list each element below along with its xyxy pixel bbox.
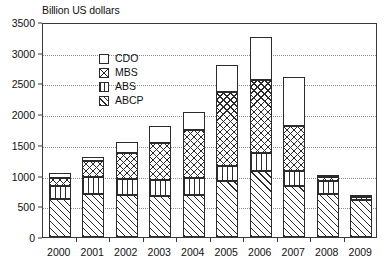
bar-stack[interactable] <box>183 22 205 237</box>
bar-segment-abcp[interactable] <box>149 196 171 237</box>
bar-segment-abcp[interactable] <box>116 195 138 237</box>
x-tick-mark <box>143 238 144 242</box>
x-tick-label: 2001 <box>81 246 104 258</box>
legend-item-abcp[interactable]: ABCP <box>99 95 144 106</box>
bar-segment-mbs[interactable] <box>149 143 171 180</box>
bar-segment-abs[interactable] <box>350 197 372 200</box>
bar-stack[interactable] <box>49 22 71 237</box>
y-tick-label: 2500 <box>12 78 35 90</box>
bar-segment-mbs[interactable] <box>49 178 71 186</box>
x-tick-mark <box>210 238 211 242</box>
y-tick-label: 2000 <box>12 109 35 121</box>
x-tick-mark <box>109 238 110 242</box>
x-tick-mark <box>310 238 311 242</box>
bar-segment-abs[interactable] <box>49 186 71 199</box>
x-tick-mark <box>344 238 345 242</box>
y-tick-label: 0 <box>29 232 35 244</box>
legend-item-cdo[interactable]: CDO <box>99 53 144 64</box>
legend-label: ABS <box>115 81 136 92</box>
x-tick-label: 2003 <box>148 246 171 258</box>
x-tick-label: 2004 <box>181 246 204 258</box>
x-tick-label: 2009 <box>349 246 372 258</box>
bar-segment-abcp[interactable] <box>283 186 305 237</box>
bar-segment-cdo[interactable] <box>82 157 104 162</box>
legend-label: ABCP <box>115 95 144 106</box>
bar-segment-abs[interactable] <box>149 180 171 196</box>
plot-inner <box>43 24 376 237</box>
bar-segment-abs[interactable] <box>116 179 138 194</box>
bar-segment-abcp[interactable] <box>350 200 372 237</box>
bar-segment-abcp[interactable] <box>183 195 205 237</box>
chart-title: Billion US dollars <box>42 4 120 16</box>
plot-area: CDOMBSABSABCP <box>42 23 377 238</box>
bar-segment-mbs[interactable] <box>317 177 339 181</box>
bar-segment-mbs[interactable] <box>183 130 205 179</box>
stacked-bar-chart: Billion US dollars 050010001500200025003… <box>0 0 388 272</box>
bar-segment-cdo[interactable] <box>283 77 305 126</box>
bar-segment-abcp[interactable] <box>250 171 272 237</box>
y-tick-label: 1000 <box>12 171 35 183</box>
bar-segment-cdo[interactable] <box>317 175 339 177</box>
y-tick-label: 1500 <box>12 140 35 152</box>
bar-segment-mbs[interactable] <box>250 80 272 153</box>
legend-swatch-mbs-icon <box>99 68 109 78</box>
bar-segment-abcp[interactable] <box>317 194 339 237</box>
bar-segment-cdo[interactable] <box>250 37 272 80</box>
legend-swatch-abcp-icon <box>99 96 109 106</box>
x-tick-mark <box>243 238 244 242</box>
bar-segment-cdo[interactable] <box>183 112 205 129</box>
bar-segment-abcp[interactable] <box>216 181 238 237</box>
bar-segment-mbs[interactable] <box>216 92 238 166</box>
x-tick-label: 2007 <box>282 246 305 258</box>
bar-segment-mbs[interactable] <box>283 126 305 170</box>
bar-segment-abcp[interactable] <box>82 194 104 237</box>
bar-segment-mbs[interactable] <box>116 153 138 179</box>
x-tick-label: 2000 <box>47 246 70 258</box>
bar-segment-abs[interactable] <box>82 177 104 193</box>
bar-segment-abs[interactable] <box>183 178 205 195</box>
y-axis: 0500100015002000250030003500 <box>0 23 42 238</box>
bar-segment-abcp[interactable] <box>49 199 71 237</box>
x-axis: 2000200120022003200420052006200720082009 <box>42 238 377 272</box>
bar-segment-cdo[interactable] <box>116 142 138 153</box>
bar-segment-cdo[interactable] <box>149 126 171 143</box>
bar-segment-cdo[interactable] <box>49 173 71 179</box>
legend-item-mbs[interactable]: MBS <box>99 67 144 78</box>
legend-label: MBS <box>115 67 138 78</box>
bar-segment-cdo[interactable] <box>216 65 238 92</box>
legend-item-abs[interactable]: ABS <box>99 81 144 92</box>
x-tick-label: 2002 <box>114 246 137 258</box>
y-tick-label: 3500 <box>12 17 35 29</box>
x-tick-label: 2006 <box>248 246 271 258</box>
legend-swatch-cdo-icon <box>99 54 109 64</box>
bar-stack[interactable] <box>250 22 272 237</box>
x-tick-mark <box>277 238 278 242</box>
legend-swatch-abs-icon <box>99 82 109 92</box>
bar-stack[interactable] <box>149 22 171 237</box>
x-tick-label: 2008 <box>315 246 338 258</box>
bar-segment-abs[interactable] <box>250 153 272 171</box>
bar-stack[interactable] <box>317 22 339 237</box>
bar-segment-abs[interactable] <box>317 181 339 194</box>
chart-legend: CDOMBSABSABCP <box>99 53 144 106</box>
bar-segment-abs[interactable] <box>283 171 305 186</box>
bar-segment-abs[interactable] <box>216 166 238 181</box>
bar-stack[interactable] <box>216 22 238 237</box>
bar-segment-mbs[interactable] <box>350 195 372 197</box>
bar-segment-mbs[interactable] <box>82 161 104 177</box>
y-tick-label: 500 <box>17 201 35 213</box>
x-tick-mark <box>176 238 177 242</box>
legend-label: CDO <box>115 53 138 64</box>
x-tick-label: 2005 <box>215 246 238 258</box>
y-tick-label: 3000 <box>12 48 35 60</box>
x-tick-mark <box>76 238 77 242</box>
bar-stack[interactable] <box>283 22 305 237</box>
bar-stack[interactable] <box>350 22 372 237</box>
